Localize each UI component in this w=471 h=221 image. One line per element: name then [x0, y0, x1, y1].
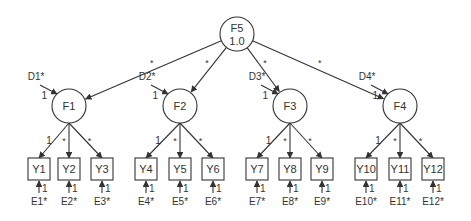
error-y6-label: E6*	[205, 196, 221, 207]
indicator-y2-label: Y2	[62, 163, 75, 175]
error-loading-y3: 1	[105, 183, 111, 194]
loading-label-y4: 1	[155, 135, 161, 146]
indicator-y10-label: Y10	[356, 163, 376, 175]
error-loading-y4: 1	[149, 183, 155, 194]
error-y2-label: E2*	[61, 196, 77, 207]
loading-label-y1: 1	[46, 135, 52, 146]
error-loading-y12: 1	[436, 183, 442, 194]
indicator-y1-label: Y1	[32, 163, 45, 175]
indicator-y6-label: Y6	[206, 163, 219, 175]
error-y8-label: E8*	[282, 196, 298, 207]
error-loading-y1: 1	[42, 183, 48, 194]
path-label-f2: *	[205, 58, 209, 68]
indicator-y7-label: Y7	[250, 163, 263, 175]
disturbance-f2-label: D2*	[139, 71, 156, 82]
disturbance-f3-label: D3*	[249, 71, 266, 82]
disturbance-f3-loading: 1	[262, 90, 268, 101]
error-y7-label: E7*	[249, 196, 265, 207]
indicator-y8-label: Y8	[283, 163, 296, 175]
factor-f5-label: F5	[231, 22, 244, 34]
path-f5-to-f3	[247, 48, 279, 92]
disturbance-f1-loading: 1	[41, 90, 47, 101]
loading-label-y3: *	[88, 136, 92, 146]
error-loading-y8: 1	[293, 183, 299, 194]
error-loading-y7: 1	[260, 183, 266, 194]
indicator-y3-label: Y3	[95, 163, 108, 175]
error-loading-y9: 1	[325, 183, 331, 194]
factor-f3-label: F3	[284, 100, 297, 112]
error-y4-label: E4*	[138, 196, 154, 207]
indicator-y12-label: Y12	[423, 163, 443, 175]
factor-f1-label: F1	[63, 100, 76, 112]
error-loading-y2: 1	[72, 183, 78, 194]
loading-arrow-y6	[180, 123, 213, 158]
indicator-y4-label: Y4	[139, 163, 152, 175]
path-label-f4: *	[318, 58, 322, 68]
path-f5-to-f4	[253, 41, 384, 99]
loading-label-y5: *	[173, 136, 177, 146]
path-label-f1: *	[150, 58, 154, 68]
disturbance-f4-label: D4*	[359, 71, 376, 82]
indicator-y9-label: Y9	[315, 163, 328, 175]
error-y5-label: E5*	[172, 196, 188, 207]
loading-label-y11: *	[393, 136, 397, 146]
error-y11-label: E11*	[390, 196, 411, 207]
error-y1-label: E1*	[31, 196, 47, 207]
path-f5-to-f2	[191, 47, 226, 92]
error-loading-y6: 1	[216, 183, 222, 194]
loading-arrow-y12	[400, 123, 433, 158]
loading-label-y8: *	[283, 136, 287, 146]
indicator-y11-label: Y11	[391, 163, 410, 175]
disturbance-f2-loading: 1	[152, 90, 158, 101]
error-y9-label: E9*	[314, 196, 330, 207]
factor-f5-variance: 1.0	[229, 35, 244, 47]
error-y12-label: E12*	[422, 196, 444, 207]
factor-f2-label: F2	[174, 100, 187, 112]
loading-label-y7: 1	[266, 135, 272, 146]
loading-label-y12: *	[419, 136, 423, 146]
error-y3-label: E3*	[94, 196, 110, 207]
error-loading-y5: 1	[183, 183, 189, 194]
loading-arrow-y9	[290, 123, 322, 158]
factor-f4-label: F4	[394, 100, 407, 112]
loading-label-y2: *	[62, 136, 66, 146]
path-label-f3: *	[263, 58, 267, 68]
indicator-y5-label: Y5	[173, 163, 186, 175]
loading-label-y10: 1	[375, 135, 381, 146]
error-y10-label: E10*	[355, 196, 377, 207]
error-loading-y11: 1	[403, 183, 409, 194]
disturbance-f4-loading: 1	[372, 90, 378, 101]
loading-label-y6: *	[199, 136, 203, 146]
disturbance-f1-label: D1*	[28, 71, 45, 82]
path-diagram: F51.0*F1D1*1*F2D2*1*F3D3*1*F4D4*11Y11E1*…	[0, 0, 471, 221]
loading-label-y9: *	[308, 136, 312, 146]
loading-arrow-y3	[69, 123, 102, 158]
error-loading-y10: 1	[369, 183, 375, 194]
